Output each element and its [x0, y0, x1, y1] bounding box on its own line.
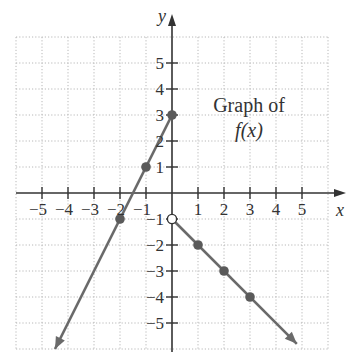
annotation-line1: Graph of — [213, 94, 285, 117]
y-tick-label: 2 — [156, 132, 165, 151]
x-tick-label: −5 — [29, 200, 47, 219]
x-tick-label: −2 — [107, 200, 125, 219]
y-tick-label: −4 — [146, 288, 165, 307]
filled-point — [167, 110, 177, 120]
x-axis-label: x — [335, 200, 344, 220]
x-axis-arrow-icon — [334, 189, 346, 197]
filled-point — [219, 266, 229, 276]
curves — [55, 115, 297, 349]
x-tick-label: 3 — [246, 200, 255, 219]
y-axis-label: y — [156, 6, 166, 26]
y-tick-label: −2 — [146, 236, 164, 255]
y-axis-arrow-icon — [168, 14, 176, 26]
y-tick-label: 1 — [156, 158, 165, 177]
x-tick-label: 4 — [272, 200, 281, 219]
x-tick-label: −4 — [55, 200, 74, 219]
y-tick-label: −5 — [146, 314, 164, 333]
open-point — [167, 214, 176, 223]
axes — [16, 14, 346, 352]
y-tick-label: 4 — [156, 80, 165, 99]
curve-segment — [176, 223, 297, 344]
filled-point — [141, 162, 151, 172]
x-tick-label: −3 — [81, 200, 99, 219]
y-tick-label: 3 — [156, 106, 165, 125]
filled-point — [245, 292, 255, 302]
y-tick-label: −1 — [146, 210, 164, 229]
annotation-line2: f(x) — [235, 119, 263, 142]
function-graph: −5−4−3−2−112345−5−4−3−2−112345 Graph of … — [0, 0, 353, 359]
x-tick-label: 1 — [194, 200, 203, 219]
y-tick-label: 5 — [156, 54, 165, 73]
filled-point — [193, 240, 203, 250]
x-tick-label: 5 — [298, 200, 307, 219]
y-tick-label: −3 — [146, 262, 164, 281]
x-tick-label: 2 — [220, 200, 229, 219]
